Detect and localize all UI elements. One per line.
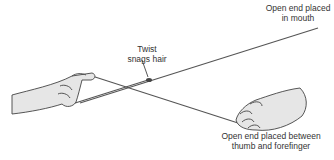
label-line: Twist <box>122 44 172 54</box>
label-line: snags hair <box>122 54 172 64</box>
label-line: thumb and forefinger <box>208 141 334 151</box>
label-line: Open end placed <box>258 3 334 13</box>
label-line: Open end placed between <box>208 131 334 141</box>
label-open-end-mouth: Open end placed in mouth <box>258 3 334 23</box>
left-hand <box>12 73 95 114</box>
string-upper-left <box>92 76 238 123</box>
right-hand <box>236 88 306 130</box>
string-lower-left <box>72 80 148 104</box>
label-open-end-thumb: Open end placed between thumb and forefi… <box>208 131 334 151</box>
label-line: in mouth <box>258 13 334 23</box>
label-twist-snags-hair: Twist snags hair <box>122 44 172 64</box>
